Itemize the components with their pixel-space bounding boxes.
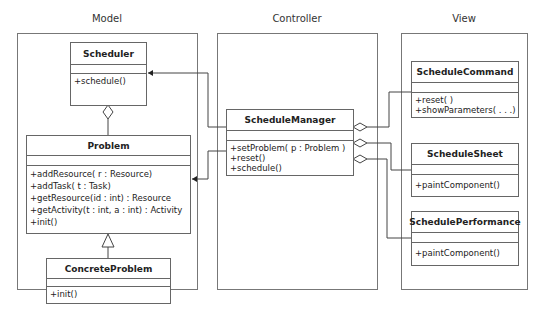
class-attributes [412,233,518,243]
method: +showParameters( . . .) [415,105,518,115]
class-attributes [71,65,146,74]
method: +paintComponent() [415,248,518,259]
class-attributes [412,165,518,175]
class-methods: +addResource( r : Resource) +addTask( t … [27,166,190,228]
class-attributes [412,83,518,93]
method: +schedule() [74,76,146,87]
class-name: ConcreteProblem [47,259,170,279]
method: +reset() [230,153,353,163]
method: +addTask( t : Task) [30,180,190,192]
class-methods: +schedule() [71,74,146,87]
class-name: Problem [27,136,190,156]
class-schedule-manager[interactable]: ScheduleManager +setProblem( p : Problem… [226,109,354,176]
class-schedule-command[interactable]: ScheduleCommand +reset( ) +showParameter… [411,61,519,118]
method: +getActivity(t : int, a : int) : Activit… [30,204,190,216]
class-methods: +reset( ) +showParameters( . . .) [412,93,518,115]
method: +init() [30,216,190,228]
method: +init() [50,289,170,300]
class-name: ScheduleCommand [412,62,518,83]
class-name: Scheduler [71,43,146,65]
method: +schedule() [230,163,353,173]
class-methods: +paintComponent() [412,243,518,259]
class-schedule-performance[interactable]: SchedulePerformance +paintComponent() [411,211,519,266]
method: +addResource( r : Resource) [30,168,190,180]
class-methods: +init() [47,287,170,300]
class-scheduler[interactable]: Scheduler +schedule() [70,42,147,106]
class-problem[interactable]: Problem +addResource( r : Resource) +add… [26,135,191,234]
class-attributes [27,156,190,166]
class-name: ScheduleSheet [412,144,518,165]
method: +paintComponent() [415,180,518,191]
class-attributes [47,279,170,287]
method: +reset( ) [415,95,518,105]
class-methods: +setProblem( p : Problem ) +reset() +sch… [227,141,353,173]
class-attributes [227,131,353,141]
class-name: ScheduleManager [227,110,353,131]
method: +getResource(id : int) : Resource [30,192,190,204]
class-concrete-problem[interactable]: ConcreteProblem +init() [46,258,171,304]
class-methods: +paintComponent() [412,175,518,191]
class-name: SchedulePerformance [412,212,518,233]
class-schedule-sheet[interactable]: ScheduleSheet +paintComponent() [411,143,519,197]
method: +setProblem( p : Problem ) [230,143,353,153]
